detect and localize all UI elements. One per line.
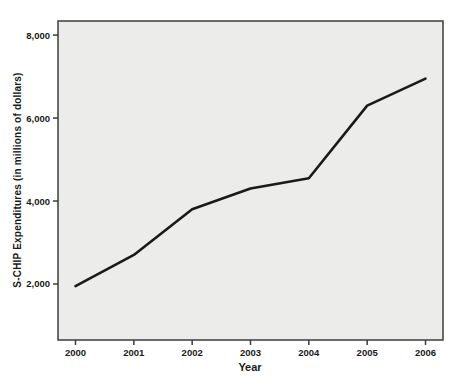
y-tick-label: 4,000 bbox=[26, 196, 50, 207]
x-tick-label: 2005 bbox=[357, 347, 379, 358]
x-tick-label: 2001 bbox=[123, 347, 145, 358]
y-tick-label: 2,000 bbox=[26, 278, 50, 289]
y-axis-title: S-CHIP Expenditures (in millions of doll… bbox=[12, 72, 23, 287]
plot-area bbox=[58, 21, 443, 340]
x-tick-label: 2000 bbox=[65, 347, 86, 358]
y-tick-label: 8,000 bbox=[26, 30, 50, 41]
x-tick-label: 2006 bbox=[415, 347, 436, 358]
y-tick-label: 6,000 bbox=[26, 113, 50, 124]
chart-container: 2,0004,0006,0008,00020002001200220032004… bbox=[0, 0, 463, 387]
x-tick-label: 2003 bbox=[240, 347, 261, 358]
line-chart-svg: 2,0004,0006,0008,00020002001200220032004… bbox=[0, 0, 463, 387]
x-tick-label: 2002 bbox=[182, 347, 203, 358]
x-tick-label: 2004 bbox=[298, 347, 320, 358]
x-axis-title: Year bbox=[238, 361, 261, 373]
